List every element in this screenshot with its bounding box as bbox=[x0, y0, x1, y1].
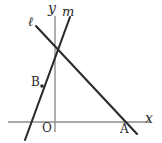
geometry-figure: y m ℓ B O A x bbox=[0, 0, 162, 143]
point-b-label: B bbox=[31, 76, 40, 88]
y-axis-label: y bbox=[48, 1, 56, 15]
point-a-label: A bbox=[120, 123, 129, 135]
origin-label: O bbox=[42, 122, 52, 134]
point-b-marker bbox=[40, 84, 44, 88]
line-l-stroke bbox=[36, 26, 137, 134]
line-l-label: ℓ bbox=[28, 15, 33, 28]
line-m-label: m bbox=[62, 5, 74, 18]
figure-canvas bbox=[0, 0, 162, 143]
x-axis-label: x bbox=[145, 111, 153, 125]
